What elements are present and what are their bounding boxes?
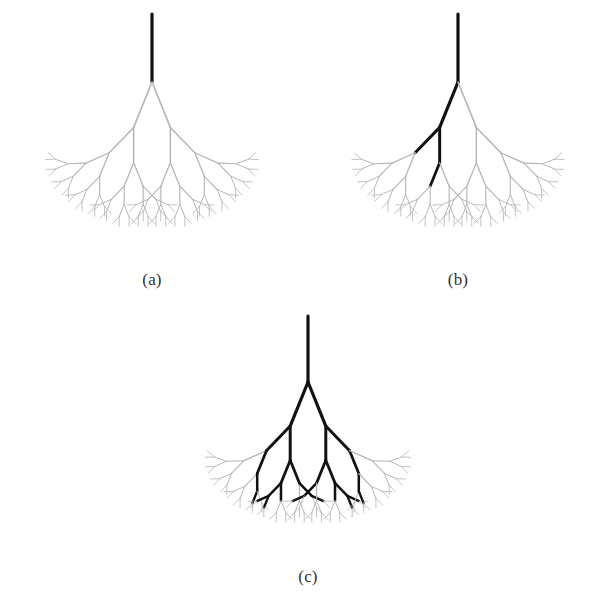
tree-branch [214,457,226,461]
tree-branch-highlighted [317,460,326,483]
tree-branch-highlighted [335,483,347,496]
tree-branch [227,491,233,498]
tree-c-graphic [0,0,612,609]
panel-b-caption: (b) [418,270,498,290]
tree-branch-highlighted [281,460,290,483]
tree-branch [208,467,214,474]
tree-branch [390,457,402,461]
tree-branch [214,479,220,486]
tree-branch [352,508,358,515]
tree-branch [401,467,407,474]
tree-branch [359,474,371,487]
panel-c-caption: (c) [268,567,348,587]
tree-branch [304,513,310,520]
figure-canvas: (a) (b) (c) [0,0,612,609]
tree-branch [234,498,240,505]
tree-branch [276,501,281,513]
tree-branch [372,461,390,462]
tree-branch [215,461,227,466]
tree-branch [295,501,300,513]
tree-branch [270,513,276,520]
tree-branch [207,451,214,457]
tree-branch-highlighted [266,426,290,451]
tree-branch [226,461,244,462]
tree-branch [286,501,292,508]
tree-branch [281,501,286,513]
tree-branch [390,461,402,466]
tree-branch [340,513,346,520]
tree-branch [372,461,384,474]
tree-branch-highlighted [290,460,299,483]
panel-a-caption: (a) [112,270,192,290]
tree-branch [402,451,409,457]
tree-branch [396,479,402,486]
tree-branch-highlighted [326,460,335,483]
tree-branch [257,508,263,515]
tree-branch-highlighted [290,382,308,426]
tree-branch [335,501,340,513]
tree-branch [376,498,382,505]
tree-branch [245,474,257,487]
tree-branch [305,513,311,520]
tree-branch-highlighted [269,483,281,496]
tree-branch-highlighted [326,426,350,451]
tree-branch [383,491,389,498]
tree-branch [330,501,335,513]
tree-branch [220,485,226,492]
tree-branch [232,461,244,474]
tree-branch [323,501,329,508]
tree-branch-highlighted [308,382,326,426]
tree-branch [389,485,395,492]
tree-branch [317,501,322,513]
